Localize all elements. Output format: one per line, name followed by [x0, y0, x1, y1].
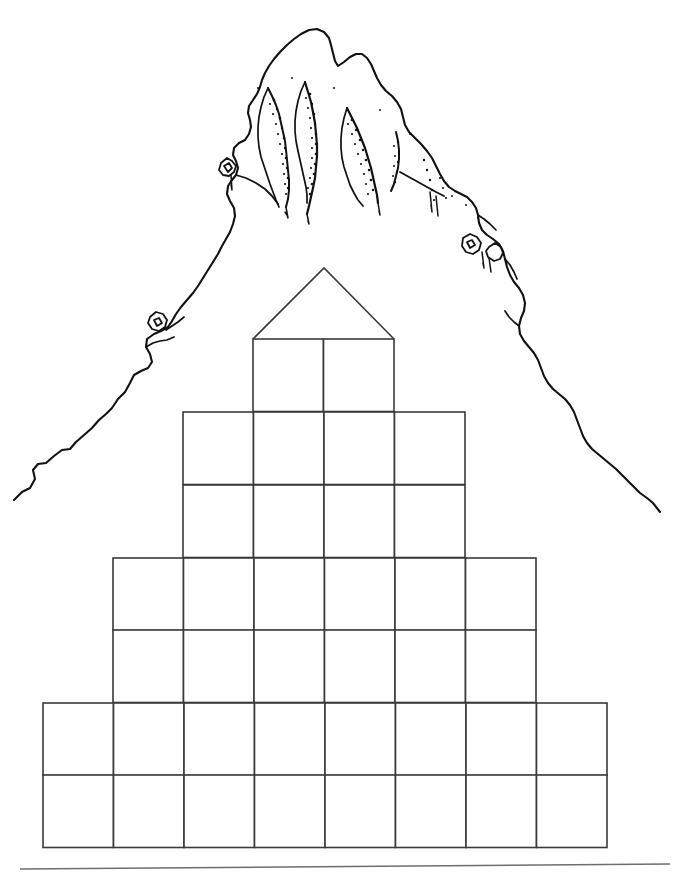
- pyramid-cell-box[interactable]: [255, 703, 326, 776]
- slope-fold-left-1: [146, 337, 174, 347]
- pyramid-cell-box[interactable]: [183, 412, 254, 485]
- ridge-icicle-6: [482, 252, 484, 268]
- pyramid-cell-box[interactable]: [255, 775, 326, 848]
- ridge-icicle-7: [489, 258, 491, 272]
- slope-fold-right-3: [505, 311, 519, 326]
- pyramid-cell-box[interactable]: [113, 630, 184, 703]
- pyramid-cell[interactable]: [395, 412, 466, 485]
- pyramid-cell[interactable]: [395, 558, 466, 631]
- pyramid-cell-box[interactable]: [254, 630, 325, 703]
- pyramid-cell[interactable]: [184, 558, 255, 631]
- pyramid-cell[interactable]: [324, 412, 395, 485]
- pyramid-cell-box[interactable]: [184, 630, 255, 703]
- pyramid-cell-box[interactable]: [396, 775, 467, 848]
- pyramid-cell-box[interactable]: [254, 412, 325, 485]
- slope-fold-left-2: [166, 317, 184, 330]
- pyramid-row-5: [113, 630, 536, 703]
- pyramid-cell[interactable]: [114, 775, 185, 848]
- pyramid-cell-box[interactable]: [324, 339, 395, 412]
- pyramid-cell[interactable]: [466, 775, 537, 848]
- pyramid-cell[interactable]: [324, 339, 395, 412]
- pyramid-cell-box[interactable]: [114, 775, 185, 848]
- pyramid-cell[interactable]: [183, 485, 254, 558]
- pyramid-cell-box[interactable]: [43, 703, 114, 776]
- pyramid-row-7: [43, 775, 607, 848]
- worksheet-page: [0, 0, 684, 875]
- pyramid-cell[interactable]: [254, 558, 325, 631]
- pyramid-cell[interactable]: [254, 630, 325, 703]
- pyramid-cell-box[interactable]: [183, 485, 254, 558]
- pyramid-cell[interactable]: [254, 412, 325, 485]
- pyramid-cell[interactable]: [537, 703, 608, 776]
- pyramid-cell[interactable]: [396, 775, 467, 848]
- footer-divider-line: [20, 864, 670, 869]
- pyramid-cell-box[interactable]: [184, 558, 255, 631]
- pyramid-cell[interactable]: [184, 630, 255, 703]
- pyramid-cell-box[interactable]: [114, 703, 185, 776]
- pyramid-cell-box[interactable]: [325, 558, 396, 631]
- pyramid-cell[interactable]: [324, 485, 395, 558]
- pyramid-cell-box[interactable]: [395, 412, 466, 485]
- pyramid-cell[interactable]: [395, 630, 466, 703]
- blank-goal-pyramid[interactable]: [43, 268, 607, 848]
- pyramid-cell-box[interactable]: [184, 703, 255, 776]
- pyramid-cell[interactable]: [255, 703, 326, 776]
- pyramid-cell-box[interactable]: [324, 485, 395, 558]
- pyramid-cell[interactable]: [466, 703, 537, 776]
- rock-knob-right-upper: [462, 234, 481, 254]
- pyramid-cell-box[interactable]: [325, 630, 396, 703]
- pyramid-cell[interactable]: [184, 703, 255, 776]
- pyramid-cell[interactable]: [183, 412, 254, 485]
- pyramid-cell[interactable]: [43, 775, 114, 848]
- pyramid-cell-box[interactable]: [466, 775, 537, 848]
- pyramid-cell-box[interactable]: [254, 558, 325, 631]
- pyramid-cell[interactable]: [466, 558, 537, 631]
- pyramid-row-3: [183, 485, 465, 558]
- pyramid-cell-box[interactable]: [253, 339, 324, 412]
- ridge-icicle-1: [285, 207, 288, 218]
- pyramid-cell[interactable]: [113, 630, 184, 703]
- pyramid-cell-box[interactable]: [184, 775, 255, 848]
- pyramid-row-1: [253, 339, 394, 412]
- pyramid-cell[interactable]: [114, 703, 185, 776]
- rock-knob-right-lower: [486, 243, 503, 261]
- pyramid-cell[interactable]: [537, 775, 608, 848]
- pyramid-row-4: [113, 558, 536, 631]
- rock-knob-left-lower: [148, 312, 167, 331]
- pyramid-cell-box[interactable]: [395, 485, 466, 558]
- pyramid-cell[interactable]: [325, 775, 396, 848]
- pyramid-cell[interactable]: [253, 339, 324, 412]
- pyramid-cell-box[interactable]: [395, 630, 466, 703]
- pyramid-cell-box[interactable]: [466, 630, 537, 703]
- pyramid-cell[interactable]: [184, 775, 255, 848]
- pyramid-cell-box[interactable]: [324, 412, 395, 485]
- pyramid-cell-box[interactable]: [466, 558, 537, 631]
- pyramid-apex-triangle[interactable]: [253, 268, 394, 339]
- pyramid-cell[interactable]: [113, 558, 184, 631]
- pyramid-row-2: [183, 412, 465, 485]
- pyramid-cell[interactable]: [466, 630, 537, 703]
- pyramid-cell-box[interactable]: [537, 775, 608, 848]
- worksheet-canvas: [0, 0, 684, 875]
- pyramid-cell-box[interactable]: [113, 558, 184, 631]
- pyramid-cell-box[interactable]: [43, 775, 114, 848]
- ridge-icicle-5: [436, 196, 438, 216]
- pyramid-cell[interactable]: [325, 558, 396, 631]
- pyramid-cell-box[interactable]: [466, 703, 537, 776]
- pyramid-cell[interactable]: [325, 703, 396, 776]
- summit-stipple-texture: [257, 77, 479, 219]
- pyramid-cell[interactable]: [395, 485, 466, 558]
- pyramid-cell[interactable]: [325, 630, 396, 703]
- pyramid-cell-box[interactable]: [537, 703, 608, 776]
- pyramid-cell[interactable]: [43, 703, 114, 776]
- pyramid-cell-box[interactable]: [254, 485, 325, 558]
- pyramid-cell[interactable]: [396, 703, 467, 776]
- ridge-icicle-4: [430, 192, 432, 212]
- pyramid-cell-box[interactable]: [395, 558, 466, 631]
- pyramid-cell-box[interactable]: [325, 703, 396, 776]
- pyramid-cell[interactable]: [254, 485, 325, 558]
- summit-ridge-right-spur-inner: [341, 108, 363, 206]
- pyramid-cell-box[interactable]: [396, 703, 467, 776]
- pyramid-cell-box[interactable]: [325, 775, 396, 848]
- pyramid-cell[interactable]: [255, 775, 326, 848]
